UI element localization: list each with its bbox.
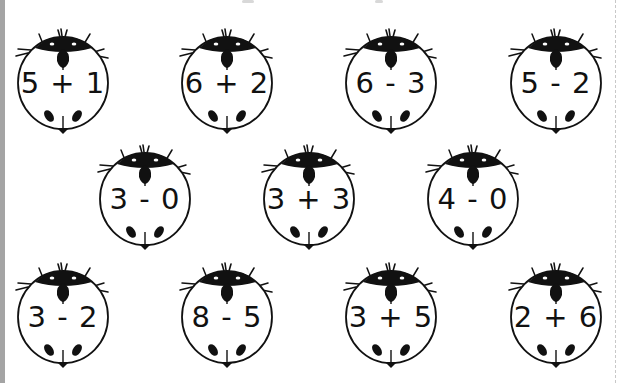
ladybug-card-r2-3: 4 - 0 (418, 138, 528, 254)
cropped-title-fragment (375, 0, 383, 3)
math-problem: 3 + 5 (336, 300, 446, 334)
math-problem: 3 - 2 (8, 300, 118, 334)
ladybug-card-r3-4: 2 + 6 (501, 256, 611, 372)
cut-line (615, 0, 616, 383)
ladybug-card-r3-1: 3 - 2 (8, 256, 118, 372)
ladybug-card-r1-1: 5 + 1 (8, 22, 118, 138)
ladybug-card-r2-2: 3 + 3 (254, 138, 364, 254)
ladybug-card-r1-4: 5 - 2 (501, 22, 611, 138)
math-problem: 6 - 3 (336, 66, 446, 100)
math-problem: 6 + 2 (172, 66, 282, 100)
ladybug-card-r3-3: 3 + 5 (336, 256, 446, 372)
math-problem: 5 - 2 (501, 66, 611, 100)
ladybug-card-r2-1: 3 - 0 (90, 138, 200, 254)
page-edge-strip (0, 0, 5, 383)
math-problem: 5 + 1 (8, 66, 118, 100)
math-problem: 2 + 6 (501, 300, 611, 334)
cropped-title-fragment (242, 0, 254, 3)
ladybug-card-r3-2: 8 - 5 (172, 256, 282, 372)
math-problem: 3 - 0 (90, 182, 200, 216)
math-problem: 3 + 3 (254, 182, 364, 216)
ladybug-card-r1-2: 6 + 2 (172, 22, 282, 138)
math-problem: 8 - 5 (172, 300, 282, 334)
math-problem: 4 - 0 (418, 182, 528, 216)
ladybug-card-r1-3: 6 - 3 (336, 22, 446, 138)
